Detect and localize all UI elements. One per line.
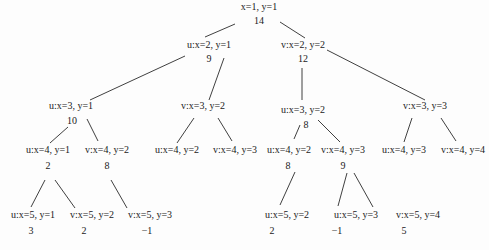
node-value: 9 bbox=[207, 53, 212, 64]
node-label: u:x=4, y=3 bbox=[382, 144, 426, 155]
tree-edge bbox=[55, 180, 75, 208]
tree-node: v:x=4, y=4 bbox=[441, 144, 485, 155]
tree-node: u:x=3, y=110 bbox=[49, 100, 93, 126]
tree-node: u:x=4, y=12 bbox=[26, 144, 70, 171]
tree-edge bbox=[441, 118, 456, 141]
node-value: 14 bbox=[254, 15, 264, 26]
node-label: v:x=4, y=4 bbox=[441, 144, 485, 155]
tree-node: u:x=4, y=2 bbox=[155, 144, 199, 155]
tree-edge bbox=[294, 125, 300, 139]
tree-edge bbox=[209, 58, 224, 100]
tree-edge bbox=[318, 120, 340, 142]
tree-node: v:x=5, y=45 bbox=[396, 209, 440, 236]
tree-node: u:x=2, y=19 bbox=[187, 39, 231, 64]
tree-edge bbox=[90, 56, 185, 100]
tree-node: v:x=5, y=3−1 bbox=[128, 209, 172, 236]
node-label: v:x=5, y=2 bbox=[70, 209, 114, 220]
tree-edge bbox=[280, 172, 295, 205]
tree-node: v:x=2, y=212 bbox=[281, 39, 325, 64]
tree-node: u:x=4, y=28 bbox=[267, 144, 311, 171]
node-value: 8 bbox=[105, 160, 110, 171]
node-label: u:x=4, y=2 bbox=[267, 144, 311, 155]
tree-edge bbox=[338, 173, 347, 206]
tree-edges bbox=[31, 22, 456, 208]
tree-edge bbox=[50, 127, 68, 143]
node-label: u:x=4, y=2 bbox=[155, 144, 199, 155]
node-value: 2 bbox=[82, 225, 87, 236]
tree-edge bbox=[87, 119, 98, 141]
tree-node: v:x=4, y=28 bbox=[85, 144, 129, 171]
tree-edge bbox=[354, 173, 373, 207]
tree-node: v:x=4, y=39 bbox=[321, 144, 365, 171]
tree-edge bbox=[404, 118, 412, 142]
tree-diagram: x=1, y=114u:x=2, y=19v:x=2, y=212u:x=3, … bbox=[0, 0, 489, 250]
node-label: v:x=2, y=2 bbox=[281, 39, 325, 50]
tree-edge bbox=[205, 24, 235, 37]
node-value: 3 bbox=[29, 225, 34, 236]
node-value: 5 bbox=[402, 225, 407, 236]
tree-edge bbox=[218, 118, 232, 141]
node-value: 8 bbox=[304, 119, 309, 130]
node-label: x=1, y=1 bbox=[241, 1, 277, 12]
node-label: u:x=4, y=1 bbox=[26, 144, 70, 155]
tree-node: x=1, y=114 bbox=[241, 1, 277, 26]
node-label: v:x=4, y=2 bbox=[85, 144, 129, 155]
tree-node: v:x=5, y=22 bbox=[70, 209, 114, 236]
tree-node: u:x=5, y=3−1 bbox=[332, 209, 378, 236]
node-value: 9 bbox=[341, 160, 346, 171]
tree-edge bbox=[280, 22, 305, 38]
node-value: 10 bbox=[67, 115, 77, 126]
node-value: 2 bbox=[46, 160, 51, 171]
node-label: v:x=5, y=4 bbox=[396, 209, 440, 220]
tree-node: u:x=3, y=28 bbox=[281, 104, 325, 130]
tree-nodes: x=1, y=114u:x=2, y=19v:x=2, y=212u:x=3, … bbox=[11, 1, 485, 236]
tree-edge bbox=[327, 50, 425, 100]
tree-svg: x=1, y=114u:x=2, y=19v:x=2, y=212u:x=3, … bbox=[0, 0, 489, 250]
node-label: u:x=2, y=1 bbox=[187, 39, 231, 50]
node-value: 8 bbox=[286, 160, 291, 171]
node-value: −1 bbox=[332, 225, 343, 236]
node-label: u:x=3, y=1 bbox=[49, 100, 93, 111]
tree-node: v:x=4, y=3 bbox=[213, 144, 257, 155]
node-label: u:x=5, y=2 bbox=[265, 209, 309, 220]
node-label: u:x=5, y=1 bbox=[11, 209, 55, 220]
tree-node: v:x=3, y=2 bbox=[181, 100, 225, 111]
node-label: v:x=3, y=3 bbox=[403, 100, 447, 111]
tree-node: u:x=4, y=3 bbox=[382, 144, 426, 155]
node-value: 2 bbox=[270, 225, 275, 236]
node-label: v:x=3, y=2 bbox=[181, 100, 225, 111]
tree-node: u:x=5, y=22 bbox=[265, 209, 309, 236]
tree-edge bbox=[177, 118, 194, 143]
tree-node: v:x=3, y=3 bbox=[403, 100, 447, 111]
tree-edge bbox=[31, 180, 45, 207]
node-label: v:x=4, y=3 bbox=[213, 144, 257, 155]
node-label: v:x=4, y=3 bbox=[321, 144, 365, 155]
tree-edge bbox=[111, 180, 127, 208]
node-label: u:x=5, y=3 bbox=[334, 209, 378, 220]
node-label: v:x=5, y=3 bbox=[128, 209, 172, 220]
tree-node: u:x=5, y=13 bbox=[11, 209, 55, 236]
node-value: 12 bbox=[298, 53, 308, 64]
node-label: u:x=3, y=2 bbox=[281, 104, 325, 115]
node-value: −1 bbox=[142, 225, 153, 236]
